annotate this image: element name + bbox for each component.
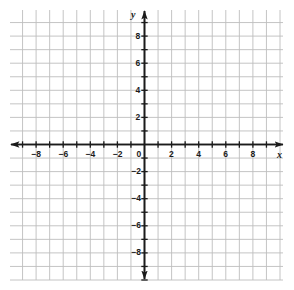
y-tick-label: 6 bbox=[136, 59, 141, 68]
x-tick-label: 2 bbox=[169, 150, 174, 159]
x-tick-label: 0 bbox=[137, 150, 142, 159]
y-tick-label: 8 bbox=[136, 32, 141, 41]
x-tick-label: 8 bbox=[250, 150, 255, 159]
x-tick-label: −4 bbox=[86, 150, 95, 159]
x-tick-label: −8 bbox=[32, 150, 41, 159]
y-tick-label: −8 bbox=[132, 248, 141, 257]
y-tick-label: −6 bbox=[132, 221, 141, 230]
grid-lines-horizontal bbox=[10, 23, 283, 280]
y-tick-label: 4 bbox=[136, 86, 141, 95]
y-tick-label: −2 bbox=[132, 167, 141, 176]
x-tick-label: 6 bbox=[223, 150, 228, 159]
y-axis-label: y bbox=[131, 10, 135, 20]
coordinate-plane-figure: −8−6−4−202468 8642−2−4−6−8 x y bbox=[0, 0, 294, 290]
y-tick-label: −4 bbox=[132, 194, 141, 203]
x-tick-label: 4 bbox=[196, 150, 201, 159]
coordinate-grid-svg bbox=[0, 0, 294, 290]
x-tick-label: −2 bbox=[113, 150, 122, 159]
y-tick-label: 2 bbox=[136, 113, 141, 122]
x-tick-label: −6 bbox=[59, 150, 68, 159]
x-axis-label: x bbox=[277, 150, 282, 160]
